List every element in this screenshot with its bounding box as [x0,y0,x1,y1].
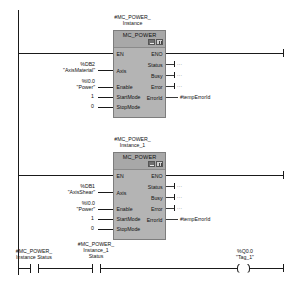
pin-in-stopmode-2: StopMode [117,226,141,232]
pin-out-errorid-1: ErrorId [147,95,163,101]
eno-wire-2 [166,175,283,176]
busy-operand-1[interactable]: ... [177,71,182,77]
const-startmode-2-wire [98,219,113,220]
status-operand-2[interactable]: ... [177,182,182,188]
instance-name-2: #MC_POWER_ Instance_1 [95,136,170,148]
operand-enable-1-symbol: "Power" [30,84,95,90]
pin-out-eno-2: ENO [151,173,162,179]
pin-in-axis-1: Axis [117,68,127,74]
contact-1-label: #MC_POWER_ Instance Status [3,248,65,260]
eno-wire-1 [166,53,283,54]
pin-out-eno-1: ENO [151,51,162,57]
operand-enable-1[interactable]: %I0.0 "Power" [30,78,95,90]
busy-tick-2 [174,194,175,200]
block-call-icon[interactable] [148,161,155,167]
error-tick-1 [174,83,175,89]
rung-wire-b [39,268,92,269]
pin-out-status-1: Status [148,62,163,68]
const-stopmode-2[interactable]: 0 [70,225,94,231]
const-stopmode-2-wire [98,229,113,230]
operand-axis-1-wire [98,70,113,71]
errorid-operand-2[interactable]: #tempErrorId [180,216,210,222]
coil-arc-left [237,264,242,273]
pin-in-enable-2: Enable [117,206,133,212]
rung-wire-d [250,268,283,269]
pin-in-en-2: EN [117,173,124,179]
contact-no-1[interactable] [30,264,39,273]
const-startmode-1[interactable]: 1 [70,93,94,99]
power-rail-left [18,10,19,275]
pin-out-error-2: Error [151,206,163,212]
operand-axis-2-symbol: "AxisShear" [30,189,95,195]
block-call-icon[interactable] [148,39,155,45]
pin-in-stopmode-1: StopMode [117,104,141,110]
error-operand-2[interactable]: ... [177,204,182,210]
error-tick-2 [174,205,175,211]
pin-out-errorid-2: ErrorId [147,217,163,223]
errorid-wire-2 [166,219,178,220]
function-block-header-2: MC_POWER [114,153,165,170]
en-wire-2 [18,175,113,176]
status-operand-1[interactable]: ... [177,60,182,66]
rung-terminator [283,264,284,272]
pin-out-busy-1: Busy [151,73,163,79]
contact-2-label: #MC_POWER_ Instance_1 Status [65,241,127,260]
errorid-wire-1 [166,97,178,98]
pin-out-error-1: Error [151,84,163,90]
block-properties-icon[interactable] [156,161,163,167]
operand-enable-2-wire [98,209,113,210]
rung-wire-a [18,268,30,269]
status-tick-1 [174,61,175,67]
const-stopmode-1-wire [98,107,113,108]
coil-output[interactable] [237,264,250,273]
pin-out-busy-2: Busy [151,195,163,201]
pin-in-startmode-1: StartMode [117,94,141,100]
pin-in-axis-2: Axis [117,190,127,196]
errorid-operand-1[interactable]: #tempErrorId [180,94,210,100]
en-wire-1 [18,53,113,54]
status-tick-2 [174,183,175,189]
operand-axis-1-symbol: "AxisMaterial" [30,67,95,73]
coil-label: %Q0.0 "Tag_1" [220,248,270,260]
eno-terminator-2 [283,171,284,179]
operand-enable-2[interactable]: %I0.0 "Power" [30,200,95,212]
function-block-title-1: MC_POWER [114,32,165,38]
operand-enable-1-wire [98,87,113,88]
const-startmode-1-wire [98,97,113,98]
lad-editor-canvas: #MC_POWER_ Instance MC_POWER EN Axis Ena… [0,0,290,285]
rung-wire-c [101,268,237,269]
function-block-icons-2 [148,161,164,167]
pin-out-status-2: Status [148,184,163,190]
operand-axis-2[interactable]: %DB1 "AxisShear" [30,183,95,195]
const-startmode-2[interactable]: 1 [70,215,94,221]
clipped-header-text [2,0,62,7]
busy-operand-2[interactable]: ... [177,193,182,199]
eno-terminator-1 [283,49,284,57]
const-stopmode-1[interactable]: 0 [70,103,94,109]
operand-enable-2-symbol: "Power" [30,206,95,212]
busy-tick-1 [174,72,175,78]
function-block-title-2: MC_POWER [114,154,165,160]
pin-in-enable-1: Enable [117,84,133,90]
function-block-icons-1 [148,39,164,45]
instance-name-1: #MC_POWER_ Instance [95,14,170,26]
function-block-1[interactable]: MC_POWER EN Axis Enable StartMode StopMo… [113,30,166,118]
function-block-2[interactable]: MC_POWER EN Axis Enable StartMode StopMo… [113,152,166,240]
operand-axis-2-wire [98,192,113,193]
operand-axis-1[interactable]: %DB2 "AxisMaterial" [30,61,95,73]
pin-in-startmode-2: StartMode [117,216,141,222]
contact-no-2[interactable] [92,264,101,273]
function-block-header-1: MC_POWER [114,31,165,48]
pin-in-en-1: EN [117,51,124,57]
block-properties-icon[interactable] [156,39,163,45]
error-operand-1[interactable]: ... [177,82,182,88]
